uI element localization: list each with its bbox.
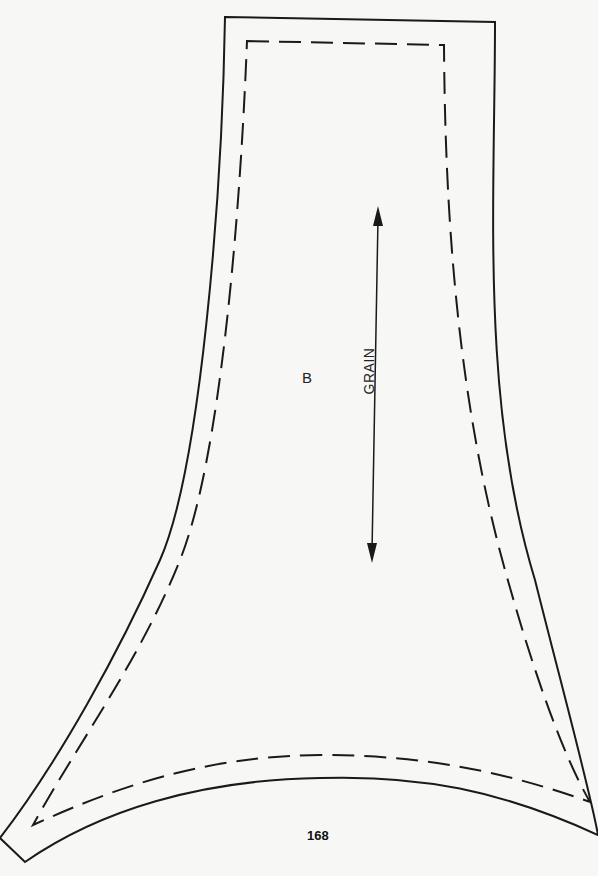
page-number: 168: [307, 828, 329, 843]
pattern-piece-drawing: [0, 0, 598, 876]
seam-line: [33, 41, 590, 825]
cutting-line: [0, 17, 598, 862]
piece-label: B: [302, 369, 312, 386]
grain-label: GRAIN: [361, 348, 377, 395]
pattern-page: B GRAIN 168: [0, 0, 598, 876]
